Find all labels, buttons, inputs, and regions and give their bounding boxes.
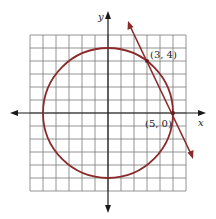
y-axis [105, 11, 111, 213]
point-3-4 [145, 59, 149, 63]
point-label-3-4: (3, 4) [150, 49, 177, 60]
x-axis-right-arrow-icon [198, 110, 206, 116]
y-axis-up-arrow-icon [105, 11, 111, 19]
x-axis-label: x [198, 117, 204, 128]
point-5-0 [171, 111, 175, 115]
line-bottom-arrow-icon [188, 150, 194, 159]
y-axis-down-arrow-icon [105, 205, 111, 213]
coordinate-plane: (3, 4) (5, 0) x y [0, 0, 216, 219]
point-label-5-0: (5, 0) [145, 118, 172, 129]
secant-line [128, 21, 194, 159]
y-axis-label: y [97, 11, 104, 22]
x-axis-left-arrow-icon [10, 110, 18, 116]
